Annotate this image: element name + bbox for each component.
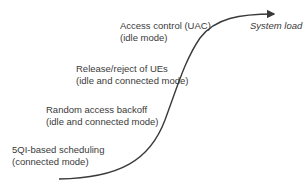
stage-5qi-scheduling: 5QI-based scheduling (connected mode) (12, 144, 104, 168)
stage-random-access-backoff: Random access backoff (idle and connecte… (46, 104, 159, 128)
stage-mode: (idle and connected mode) (76, 75, 189, 87)
stage-title: Random access backoff (46, 104, 159, 116)
system-load-label: System load (250, 20, 302, 31)
stage-title: 5QI-based scheduling (12, 144, 104, 156)
stage-title: Access control (UAC) (120, 20, 211, 32)
stage-mode: (connected mode) (12, 156, 104, 168)
stage-release-reject: Release/reject of UEs (idle and connecte… (76, 63, 189, 87)
stage-access-control: Access control (UAC) (idle mode) (120, 20, 211, 44)
stage-mode: (idle mode) (120, 32, 211, 44)
stage-title: Release/reject of UEs (76, 63, 189, 75)
stage-mode: (idle and connected mode) (46, 116, 159, 128)
